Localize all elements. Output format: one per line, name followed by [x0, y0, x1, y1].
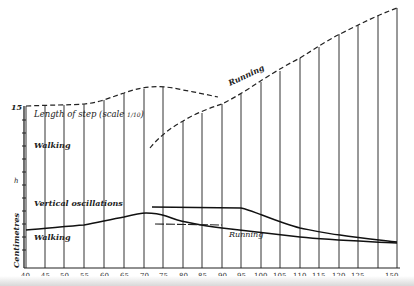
running-step-label: Running [226, 62, 266, 88]
page-edge-shadow [0, 276, 414, 286]
walking-step-label: Walking [34, 140, 71, 150]
gait-chart: Length of step (scale 1/10) Walking Runn… [0, 0, 414, 286]
y-tick-h: h [14, 177, 19, 185]
vertical-gridlines [26, 8, 397, 268]
walking-oscillation-label: Walking [34, 232, 71, 242]
step-title-label: Length of step (scale 1/10) [33, 109, 144, 119]
y-axis-label: Centimetres [11, 212, 21, 268]
vertical-oscillations-label: Vertical oscillations [34, 198, 123, 208]
step-running-curve [150, 8, 397, 148]
step-walking-curve [26, 87, 218, 106]
y-tick-15: 15 [11, 102, 23, 112]
oscillation-walking-curve [26, 213, 397, 243]
running-oscillation-label: Running [228, 230, 263, 239]
oscillation-running-dashed-segment [155, 224, 222, 225]
